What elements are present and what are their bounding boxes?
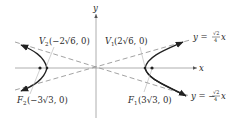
x-axis-label: x xyxy=(199,63,204,73)
svg-text:y =: y = xyxy=(192,32,208,42)
asymptote-lower-equation: y = − √2 4 x xyxy=(190,89,226,102)
svg-text:2: 2 xyxy=(23,100,27,106)
asymptote-upper-equation: y = √2 4 x xyxy=(192,30,226,43)
svg-text:(2√6, 0): (2√6, 0) xyxy=(114,36,148,46)
focus-f1-label: F 1 (3√3, 0) xyxy=(127,95,172,106)
hyperbola-left-branch xyxy=(21,45,47,68)
focus-f2-label: F 2 (−3√3, 0) xyxy=(16,95,68,106)
vertex-v2-label: V 2 (−2√6, 0) xyxy=(39,36,90,47)
svg-text:√2: √2 xyxy=(213,30,219,36)
hyperbola-diagram: y x V 2 (−2√6, 0) V 1 (2√6, 0) F 2 (−3√3… xyxy=(0,0,227,123)
vertex-v1-point xyxy=(144,67,147,70)
svg-text:(3√3, 0): (3√3, 0) xyxy=(138,95,172,105)
vertex-v2-point xyxy=(46,67,49,70)
svg-text:2: 2 xyxy=(45,41,49,47)
vertex-v1-label: V 1 (2√6, 0) xyxy=(105,36,148,47)
svg-text:(−3√3, 0): (−3√3, 0) xyxy=(27,95,68,105)
svg-text:1: 1 xyxy=(134,100,138,106)
svg-text:x: x xyxy=(221,32,226,42)
svg-text:4: 4 xyxy=(214,37,217,43)
svg-text:√2: √2 xyxy=(213,89,219,95)
svg-text:4: 4 xyxy=(214,96,217,102)
svg-text:(−2√6, 0): (−2√6, 0) xyxy=(49,36,90,46)
svg-text:x: x xyxy=(221,91,226,101)
svg-text:y = −: y = − xyxy=(190,91,215,101)
y-axis-label: y xyxy=(92,3,98,13)
